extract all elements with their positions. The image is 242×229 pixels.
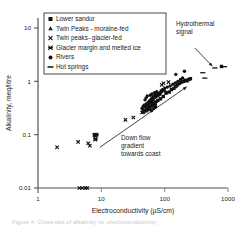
y-axis-title: Alkalinity, meq/litre — [5, 75, 13, 131]
data-point — [142, 108, 145, 111]
legend-item-twin-peaks-moraine-fed[interactable]: Twin Peaks - moraine-fed — [48, 25, 129, 32]
legend-marker-square — [49, 17, 53, 21]
data-point — [222, 66, 227, 67]
y-tick-label-1: 1 — [28, 78, 32, 85]
down-flow-line3: towards coast — [121, 150, 161, 157]
y-axis-tick-labels: 10 1 0.1 0.01 — [19, 24, 32, 191]
legend-label: Twin Peaks - moraine-fed — [56, 25, 129, 32]
legend-label: Hot springs — [56, 63, 88, 71]
x-tick-label-1000: 1000 — [221, 195, 235, 202]
legend-marker-dash — [48, 66, 54, 68]
legend-box: Lower sandurTwin Peaks - moraine-fedTwin… — [44, 13, 166, 74]
data-point — [183, 69, 186, 72]
data-point — [55, 146, 58, 149]
hydrothermal-signal-line1: Hydrothermal — [176, 20, 214, 28]
x-axis-title: Electroconductivity (µS/cm) — [92, 207, 174, 215]
data-point — [146, 94, 149, 97]
data-point — [174, 73, 177, 76]
data-point — [167, 80, 170, 83]
legend-marker-circle — [49, 55, 53, 59]
data-point — [200, 72, 205, 73]
data-points-layer — [55, 65, 227, 190]
series-rivers — [140, 69, 186, 112]
legend-label: Glacier margin and melted ice — [56, 44, 141, 52]
y-tick-label-10: 10 — [24, 24, 31, 31]
legend-label: Twin peaks- glacier-fed — [56, 34, 122, 42]
data-point — [202, 77, 207, 78]
legend-label: Rivers — [56, 53, 74, 60]
down-flow-line2: gradient — [121, 142, 144, 150]
x-tick-label-100: 100 — [160, 195, 171, 202]
data-point — [154, 102, 157, 105]
legend-item-twin-peaks-glacier-fed[interactable]: Twin peaks- glacier-fed — [49, 34, 123, 42]
x-axis-tick-labels: 1 10 100 1000 — [36, 195, 235, 202]
figure-container: 10 1 0.1 0.01 1 10 100 1000 Electrocondu… — [0, 0, 242, 229]
legend-label: Lower sandur — [56, 15, 96, 22]
legend-item-glacier-margin-and-melted-ice[interactable]: Glacier margin and melted ice — [48, 44, 141, 52]
data-point — [165, 91, 168, 94]
data-point — [162, 82, 165, 85]
scatter-plot: 10 1 0.1 0.01 1 10 100 1000 Electrocondu… — [0, 0, 242, 229]
hydrothermal-signal-line2: signal — [176, 28, 193, 36]
data-point — [124, 118, 127, 121]
legend-item-lower-sandur[interactable]: Lower sandur — [49, 15, 96, 22]
figure-caption: Figure 4. Cross-plot of alkalinity vs. e… — [12, 219, 240, 225]
y-axis-ticks — [34, 28, 38, 188]
data-point — [189, 77, 192, 80]
x-tick-label-10: 10 — [98, 195, 105, 202]
data-point — [181, 76, 184, 79]
hydrothermal-arrow — [195, 48, 212, 66]
y-tick-label-0.01: 0.01 — [19, 184, 32, 191]
x-tick-label-1: 1 — [36, 195, 40, 202]
data-point — [76, 140, 79, 143]
data-point — [212, 67, 217, 68]
down-flow-line1: Down flow — [121, 134, 151, 141]
data-point — [155, 90, 158, 93]
data-point — [132, 116, 135, 119]
y-tick-label-0.1: 0.1 — [22, 131, 31, 138]
